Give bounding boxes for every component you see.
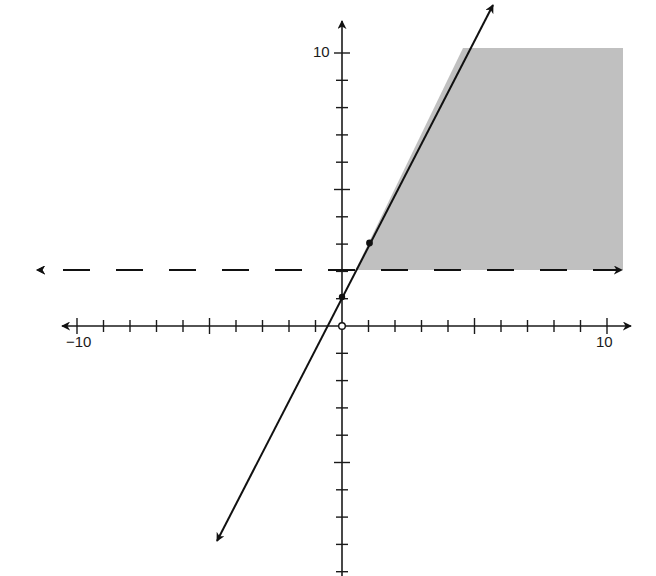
solid-line-y-equals-2x-plus-1 (217, 5, 493, 541)
y-tick-label-max: 10 (313, 43, 330, 60)
x-tick-label-min: −10 (66, 333, 91, 350)
x-tick-label-max: 10 (596, 333, 613, 350)
coordinate-plane: −10 10 10 (0, 0, 656, 576)
origin-open-point (339, 323, 346, 330)
shaded-region (356, 48, 624, 270)
point-1-3 (366, 240, 373, 247)
point-0-1 (339, 294, 345, 300)
x-axis (62, 318, 631, 334)
